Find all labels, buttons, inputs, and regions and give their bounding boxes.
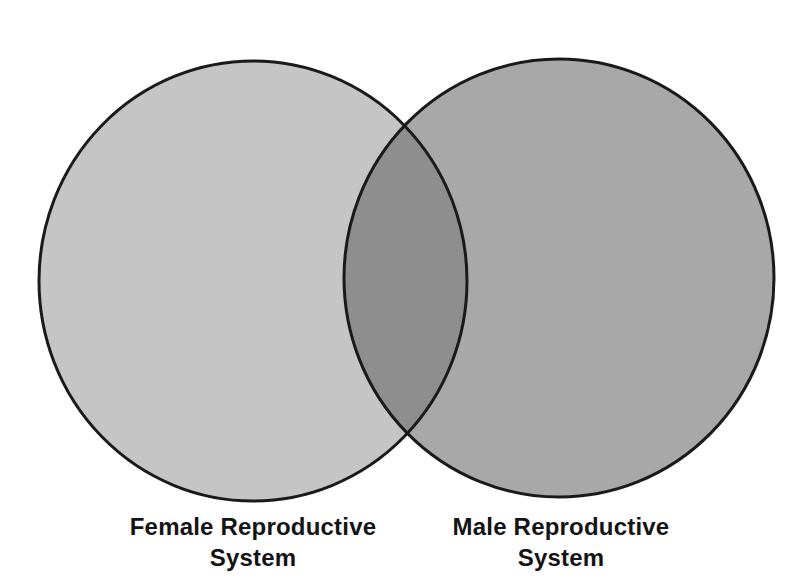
female-circle-label: Female Reproductive System	[130, 511, 377, 573]
venn-diagram-page: Female Reproductive System Male Reproduc…	[0, 0, 808, 585]
venn-diagram	[0, 0, 808, 585]
male-circle-label: Male Reproductive System	[453, 511, 670, 573]
